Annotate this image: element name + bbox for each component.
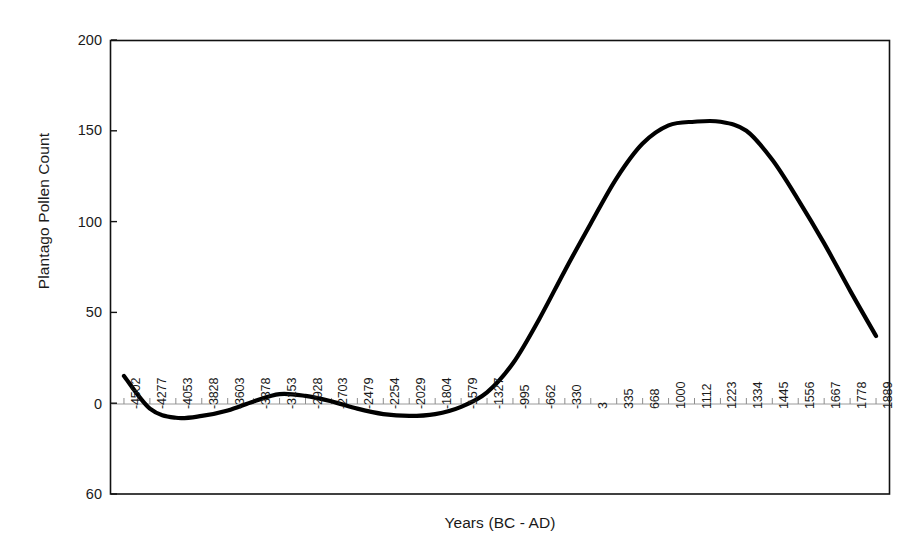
x-tick-label: 1223: [726, 335, 739, 409]
x-tick-label: -995: [519, 335, 532, 409]
x-tick-label: -1327: [493, 335, 506, 409]
x-tick-label: -2029: [415, 335, 428, 409]
y-axis-tick-marks: [111, 40, 117, 494]
x-axis-title: Years (BC - AD): [110, 514, 890, 532]
plot-frame: [111, 41, 890, 495]
x-tick-label: 1667: [830, 335, 843, 409]
x-tick-label: -3153: [286, 335, 299, 409]
x-tick-label: 1778: [856, 335, 869, 409]
x-tick-label: 1889: [882, 335, 895, 409]
x-tick-label: 1334: [752, 335, 765, 409]
x-tick-label: -1579: [467, 335, 480, 409]
x-tick-label: 1445: [778, 335, 791, 409]
x-tick-label: -3828: [208, 335, 221, 409]
x-tick-label: 3: [597, 335, 610, 409]
x-tick-label: -3378: [260, 335, 273, 409]
x-tick-label: -2703: [337, 335, 350, 409]
x-tick-label: 1000: [675, 335, 688, 409]
x-tick-label: -1804: [441, 335, 454, 409]
x-tick-label: -2928: [312, 335, 325, 409]
x-tick-label: -4277: [156, 335, 169, 409]
x-tick-label: -4502: [130, 335, 143, 409]
x-tick-label: -2254: [389, 335, 402, 409]
x-tick-label: 335: [623, 335, 636, 409]
x-tick-label: -4053: [182, 335, 195, 409]
x-tick-label: -2479: [363, 335, 376, 409]
x-tick-label: 1112: [701, 335, 714, 409]
x-tick-label: -3603: [234, 335, 247, 409]
pollen-count-line-chart: Plantago Pollen Count 200 150 100 50 0 6…: [0, 0, 921, 560]
x-tick-label: -330: [571, 335, 584, 409]
x-tick-label: -662: [545, 335, 558, 409]
x-tick-label: 668: [649, 335, 662, 409]
x-tick-label: 1556: [804, 335, 817, 409]
plot-area: [0, 0, 921, 560]
